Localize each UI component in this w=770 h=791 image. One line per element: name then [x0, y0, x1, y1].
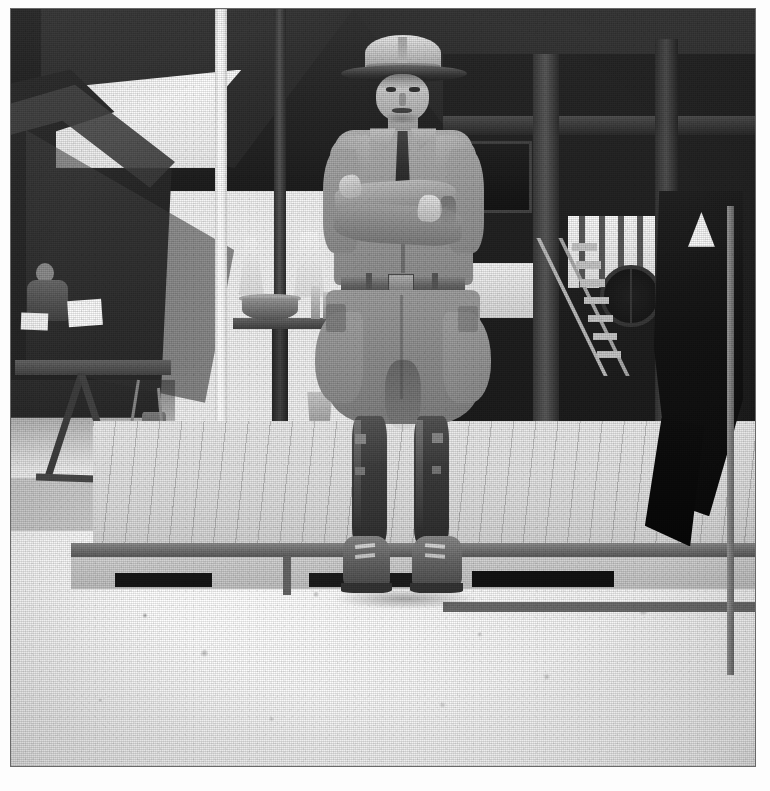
- nose: [399, 93, 406, 107]
- ladder-rung-icon: [576, 261, 601, 269]
- ladder: [570, 238, 652, 376]
- ladder-rung-icon: [593, 333, 618, 341]
- legging-buckle: [432, 433, 443, 443]
- left-eye: [386, 87, 396, 93]
- ladder-rung-icon: [584, 297, 609, 305]
- right-eye: [409, 87, 419, 93]
- legging-buckle: [432, 466, 441, 474]
- camp-table: [15, 360, 171, 375]
- boot-sole-left: [341, 583, 392, 593]
- legging-buckle: [355, 434, 366, 444]
- right-pole: [727, 206, 734, 675]
- chin-shadow: [387, 114, 418, 123]
- ladder-rung-icon: [588, 315, 613, 323]
- legging-right-highlight: [416, 420, 423, 531]
- wash-basin: [242, 298, 299, 320]
- mouth: [392, 108, 412, 113]
- legging-buckle: [355, 467, 364, 475]
- soldier-figure: [312, 35, 495, 686]
- deck-gap: [115, 573, 212, 587]
- boot-sole-right: [410, 583, 463, 593]
- ladder-rung-icon: [580, 279, 605, 287]
- cuff-shadow: [440, 196, 456, 226]
- deck-post: [283, 556, 291, 595]
- paper-sheet: [21, 313, 48, 331]
- breeches-pocket-left: [326, 304, 346, 331]
- photo-page: [0, 0, 770, 791]
- photograph: [10, 8, 756, 767]
- caption: [10, 771, 760, 789]
- breeches-pocket-right: [458, 306, 478, 332]
- paper-sheet: [67, 299, 103, 327]
- ladder-rung-icon: [597, 351, 622, 359]
- hat-brim-shadow: [376, 74, 429, 90]
- ladder-rung-icon: [572, 243, 597, 251]
